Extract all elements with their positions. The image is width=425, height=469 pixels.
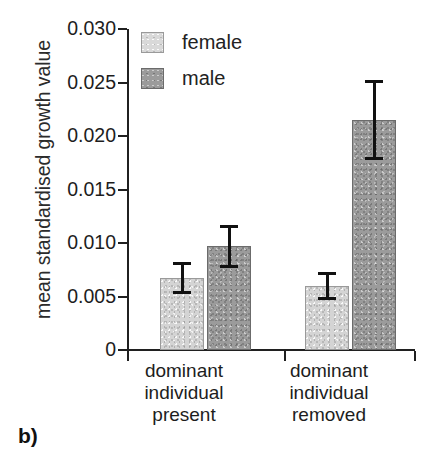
x-tick-mark [414,351,416,361]
x-category-1-line-1: dominant [109,360,259,382]
error-bar-stem [373,80,376,159]
x-category-2-line-1: dominant [254,360,404,382]
legend-swatch-male [141,68,164,89]
error-bar-cap-lower [173,291,191,294]
figure-panel-b: mean standardised growth value 00.0050.0… [0,0,425,469]
error-bar-male-group2 [365,80,383,159]
x-category-1-line-3: present [109,404,259,426]
legend: female male [141,27,242,99]
legend-swatch-female [141,32,164,53]
error-bar-cap-lower [220,265,238,268]
x-category-1-line-2: individual [109,382,259,404]
y-tick-mark [118,349,127,351]
y-tick-label: 0.020 [44,126,116,146]
x-category-2-line-3: removed [254,404,404,426]
x-category-label-1: dominant individual present [109,360,259,427]
error-bar-female-group1 [173,262,191,294]
y-tick-mark [118,135,127,137]
legend-item-male: male [141,63,242,93]
y-tick-label: 0.010 [44,233,116,253]
error-bar-cap-upper [173,262,191,265]
y-tick-label: 0.030 [44,19,116,39]
x-category-2-line-2: individual [254,382,404,404]
y-tick-mark [118,189,127,191]
y-tick-label: 0.005 [44,287,116,307]
error-bar-stem [181,262,184,294]
error-bar-female-group2 [318,272,336,300]
error-bar-cap-upper [365,80,383,83]
legend-label-female: female [182,32,242,52]
error-bar-cap-lower [318,297,336,300]
x-category-label-2: dominant individual removed [254,360,404,427]
y-tick-mark [118,82,127,84]
y-tick-label: 0 [44,340,116,360]
error-bar-stem [228,225,231,268]
error-bar-cap-upper [220,225,238,228]
legend-label-male: male [182,68,225,88]
y-tick-label: 0.025 [44,73,116,93]
y-tick-mark [118,28,127,30]
error-bar-male-group1 [220,225,238,268]
error-bar-stem [326,272,329,300]
error-bar-cap-lower [365,157,383,160]
panel-label: b) [18,424,38,448]
y-tick-mark [118,242,127,244]
y-tick-label: 0.015 [44,180,116,200]
error-bar-cap-upper [318,272,336,275]
y-tick-mark [118,296,127,298]
legend-item-female: female [141,27,242,57]
